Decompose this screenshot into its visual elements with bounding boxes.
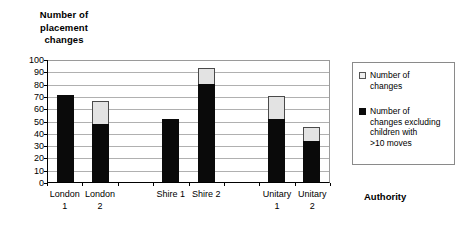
y-axis-tick-label: 70 [20, 93, 44, 102]
chart-legend: Number of changes Number of changes excl… [352, 62, 455, 165]
legend-label-line-4: >10 moves [370, 138, 412, 148]
stacked-bar[interactable] [57, 95, 74, 182]
bar-segment-number-of-changes[interactable] [268, 96, 285, 119]
x-axis-category-label [118, 189, 153, 223]
x-axis-tick-mark [82, 183, 83, 186]
bar-segment-number-of-changes[interactable] [92, 101, 109, 124]
x-axis-title: Authority [364, 191, 406, 202]
y-axis-title: Number of placement changes [18, 9, 110, 47]
x-axis-category-label: Shire 1 [153, 189, 188, 223]
x-axis-tick-mark [153, 183, 154, 186]
x-label-line-2: 2 [310, 201, 315, 211]
legend-label-line-1: Number of [370, 70, 410, 80]
legend-label-line-1: Number of [370, 106, 410, 116]
y-axis-title-line-1: Number of [18, 9, 110, 22]
bar-segment-number-of-changes[interactable] [303, 127, 320, 142]
x-axis-tick-mark [224, 183, 225, 186]
bar-slot [153, 60, 188, 182]
x-axis-category-label [224, 189, 259, 223]
legend-label-line-2: changes [370, 81, 402, 91]
stacked-bar[interactable] [92, 101, 109, 182]
plot-area [47, 60, 330, 183]
bar-slot [224, 60, 259, 182]
y-axis-title-line-3: changes [18, 34, 110, 47]
bar-segment-number-of-changes[interactable] [198, 68, 215, 84]
y-axis-tick-label: 30 [20, 142, 44, 151]
x-label-line-1: London [50, 189, 80, 199]
y-axis-tick-label: 80 [20, 81, 44, 90]
bar-slot [83, 60, 118, 182]
bar-segment-excluding-high-movers[interactable] [57, 95, 74, 182]
bar-segment-excluding-high-movers[interactable] [303, 141, 320, 182]
bar-series-group [48, 60, 329, 182]
stacked-bar[interactable] [198, 68, 215, 182]
legend-label-line-3: children with [370, 127, 417, 137]
x-axis-category-labels: London1London2Shire 1Shire 2Unitary1Unit… [47, 189, 330, 223]
x-label-line-1: Unitary [263, 189, 292, 199]
bar-segment-excluding-high-movers[interactable] [162, 119, 179, 182]
legend-item-number-of-changes: Number of changes [359, 70, 450, 91]
stacked-bar[interactable] [303, 127, 320, 182]
x-axis-tick-mark [118, 183, 119, 186]
x-label-line-2: 1 [274, 201, 279, 211]
dark-square-swatch-icon [359, 108, 366, 115]
y-axis-title-line-2: placement [18, 22, 110, 35]
stacked-bar[interactable] [162, 119, 179, 182]
x-axis-category-label: Unitary1 [259, 189, 294, 223]
y-axis-tick-label: 10 [20, 167, 44, 176]
y-axis-tick-label: 100 [20, 56, 44, 65]
x-label-line-1: Shire 1 [157, 189, 186, 199]
x-axis-tick-mark [295, 183, 296, 186]
legend-item-label: Number of changes excluding children wit… [370, 106, 440, 148]
stacked-bar[interactable] [268, 96, 285, 182]
legend-item-label: Number of changes [370, 70, 410, 91]
x-label-line-1: London [85, 189, 115, 199]
x-label-line-2: 2 [98, 201, 103, 211]
y-axis-tick-label: 50 [20, 118, 44, 127]
legend-item-number-of-changes-excluding: Number of changes excluding children wit… [359, 106, 450, 148]
x-axis-tick-mark [189, 183, 190, 186]
x-axis-tick-mark [47, 183, 48, 186]
light-square-swatch-icon [359, 72, 366, 79]
y-axis-tick-label: 0 [20, 179, 44, 188]
x-axis-category-label: Unitary2 [295, 189, 330, 223]
bar-slot [118, 60, 153, 182]
bar-slot [189, 60, 224, 182]
x-label-line-1: Unitary [298, 189, 327, 199]
y-axis-tick-labels: 1009080706050403020100 [18, 60, 44, 184]
bar-segment-excluding-high-movers[interactable] [198, 84, 215, 182]
legend-label-line-2: changes excluding [370, 117, 440, 127]
y-axis-tick-label: 20 [20, 154, 44, 163]
x-axis-category-label: London2 [82, 189, 117, 223]
x-axis-category-label: London1 [47, 189, 82, 223]
x-axis-tick-mark [330, 183, 331, 186]
x-axis-category-label: Shire 2 [189, 189, 224, 223]
x-axis-tick-mark [259, 183, 260, 186]
bar-slot [294, 60, 329, 182]
x-label-line-1: Shire 2 [192, 189, 221, 199]
y-axis-tick-label: 90 [20, 68, 44, 77]
y-axis-tick-label: 40 [20, 130, 44, 139]
y-axis-tick-label: 60 [20, 105, 44, 114]
bar-segment-excluding-high-movers[interactable] [268, 119, 285, 182]
bar-slot [259, 60, 294, 182]
bar-segment-excluding-high-movers[interactable] [92, 124, 109, 182]
x-axis-tick-marks [47, 183, 330, 187]
bar-slot [48, 60, 83, 182]
bar-chart: Number of placement changes 100908070605… [0, 0, 463, 240]
x-label-line-2: 1 [62, 201, 67, 211]
